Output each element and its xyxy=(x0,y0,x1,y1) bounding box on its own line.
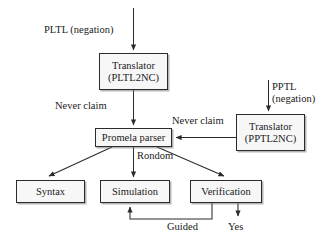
node-syntax[interactable]: Syntax xyxy=(16,180,85,203)
edge-label-never-claim-left: Never claim xyxy=(55,100,107,112)
node-verification[interactable]: Verification xyxy=(190,180,262,203)
node-label-line1: Translator xyxy=(249,121,292,133)
edge-label-yes: Yes xyxy=(228,221,243,233)
edge-label-text: Never claim xyxy=(172,115,224,127)
node-label-line2: (PPTL2NC) xyxy=(245,133,296,145)
node-label-line1: Promela parser xyxy=(102,132,165,144)
edge-label-text-line2: (negation) xyxy=(272,93,315,105)
node-simulation[interactable]: Simulation xyxy=(100,180,170,203)
edge-label-never-claim-right: Never claim xyxy=(172,115,224,127)
edge-label-pltl-negation: PLTL (negation) xyxy=(44,24,114,36)
node-label-line1: Syntax xyxy=(36,186,65,198)
edge-label-text: Rondom xyxy=(137,150,173,162)
node-promela-parser[interactable]: Promela parser xyxy=(95,128,172,147)
edge-label-text: PLTL (negation) xyxy=(44,24,114,36)
edge-parser-to-syntax xyxy=(49,147,112,176)
edge-label-text: Guided xyxy=(167,221,198,233)
edge-label-text: Yes xyxy=(228,221,243,233)
node-label-line2: (PLTL2NC) xyxy=(108,72,159,84)
flowchart-diagram: Translator (PLTL2NC) Translator (PPTL2NC… xyxy=(0,0,329,251)
edge-label-rondom: Rondom xyxy=(137,150,173,162)
edge-verification-to-simulation-guided xyxy=(130,203,212,219)
node-translator-pltl2nc[interactable]: Translator (PLTL2NC) xyxy=(99,53,168,90)
node-label-line1: Translator xyxy=(112,60,155,72)
edge-label-guided: Guided xyxy=(167,221,198,233)
node-translator-pptl2nc[interactable]: Translator (PPTL2NC) xyxy=(236,114,305,151)
node-label-line1: Verification xyxy=(201,186,251,198)
edge-label-text-line1: PPTL xyxy=(272,81,315,93)
edge-label-pptl-negation: PPTL (negation) xyxy=(272,81,315,105)
node-label-line1: Simulation xyxy=(112,186,158,198)
edge-label-text: Never claim xyxy=(55,100,107,112)
